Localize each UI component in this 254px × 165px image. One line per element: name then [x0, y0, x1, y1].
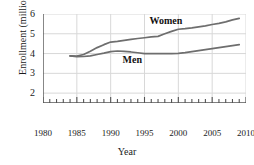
- x-tick-label: 1985: [60, 128, 94, 138]
- x-axis-title: Year: [0, 146, 254, 157]
- x-tick-label: 1995: [128, 128, 162, 138]
- y-tick-label: 3: [21, 67, 35, 78]
- plot-area: [43, 14, 246, 103]
- series-annotation-women: Women: [150, 15, 183, 26]
- x-tick-label: 2010: [229, 128, 254, 138]
- x-tick-label: 2005: [195, 128, 229, 138]
- series-annotation-men: Men: [123, 54, 142, 65]
- y-tick-label: 5: [21, 28, 35, 39]
- series-line-men: [70, 45, 239, 57]
- x-tick-label: 1990: [94, 128, 128, 138]
- plot-svg: [43, 14, 246, 103]
- y-tick-label: 6: [21, 8, 35, 19]
- enrollment-line-chart: Enrollment (millions) Year 23456 1980198…: [0, 0, 254, 165]
- y-tick-label: 2: [21, 87, 35, 98]
- x-tick-label: 1980: [26, 128, 60, 138]
- y-tick-label: 4: [21, 48, 35, 59]
- x-tick-label: 2000: [161, 128, 195, 138]
